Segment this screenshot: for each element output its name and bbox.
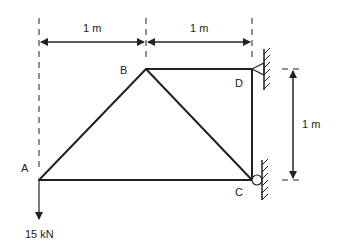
roller-support-icon: [252, 159, 268, 200]
truss-drawing: [0, 0, 339, 246]
dimension-label-top-right: 1 m: [190, 23, 208, 34]
member-ab: [39, 69, 146, 180]
load-label: 15 kN: [25, 229, 54, 240]
node-label-b: B: [120, 65, 127, 76]
node-label-d: D: [235, 78, 243, 89]
truss-members: [39, 69, 252, 180]
pin-support-icon: [252, 48, 270, 90]
truss-diagram: A B C D 1 m 1 m 1 m 15 kN: [0, 0, 339, 246]
dimension-lines: [41, 42, 293, 178]
dimension-label-top-left: 1 m: [83, 23, 101, 34]
node-label-c: C: [235, 187, 243, 198]
dimension-label-vertical: 1 m: [302, 119, 320, 130]
node-label-a: A: [21, 163, 28, 174]
